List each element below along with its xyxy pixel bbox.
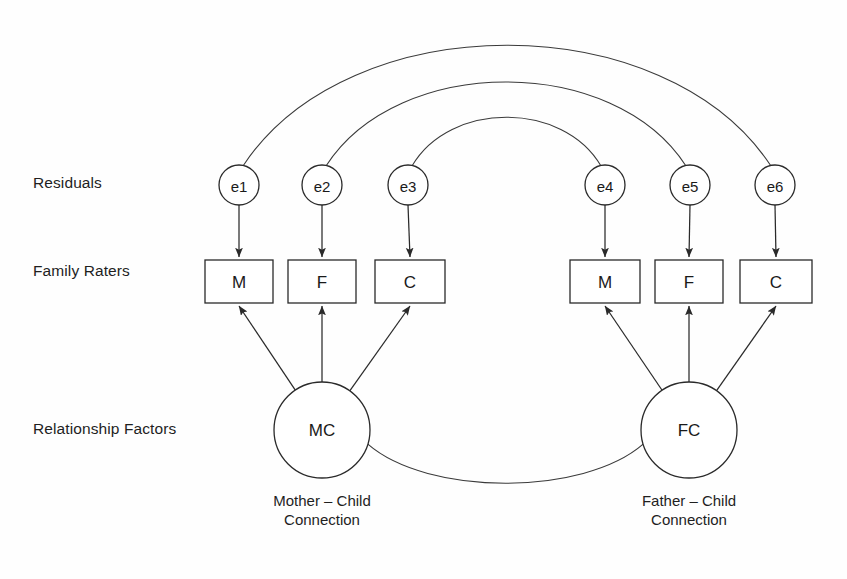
residual-label: e1 (231, 178, 248, 195)
indicator-label: F (317, 273, 327, 292)
factor-label: MC (309, 421, 335, 440)
correlation-arc-group (243, 45, 771, 166)
indicator-node: F (655, 260, 723, 303)
residual-to-indicator-arrow (775, 205, 776, 257)
indicator-box-group: MFCMFC (205, 260, 812, 303)
residual-label: e5 (682, 178, 699, 195)
residual-node: e3 (388, 165, 428, 205)
residual-correlation-arc (243, 45, 771, 166)
loading-arrow-group (239, 306, 776, 391)
residual-label: e2 (314, 178, 331, 195)
residual-label: e3 (400, 178, 417, 195)
indicator-label: C (404, 273, 416, 292)
indicator-node: M (205, 260, 273, 303)
residual-to-indicator-arrow (689, 205, 690, 257)
factor-circle-group: MCFC (274, 382, 737, 478)
indicator-node: C (740, 260, 812, 303)
indicator-label: M (232, 273, 246, 292)
path-diagram: Residuals Family Raters Relationship Fac… (0, 0, 847, 579)
residual-node: e5 (670, 165, 710, 205)
indicator-label: F (684, 273, 694, 292)
residual-arrow-group (239, 205, 776, 257)
indicator-label: M (598, 273, 612, 292)
residual-label: e6 (767, 178, 784, 195)
diagram-canvas: MFCMFC e1e2e3e4e5e6 MCFC (0, 0, 847, 579)
residual-correlation-arc (412, 117, 601, 166)
factor-label: FC (678, 421, 701, 440)
factor-loading-arrow (717, 306, 776, 391)
indicator-label: C (770, 273, 782, 292)
residual-label: e4 (597, 178, 614, 195)
residual-node: e4 (585, 165, 625, 205)
residual-node: e6 (755, 165, 795, 205)
factor-loading-arrow (605, 306, 662, 390)
residual-node: e1 (219, 165, 259, 205)
factor-loading-arrow (239, 306, 295, 390)
factor-loading-arrow (350, 306, 410, 391)
factor-node: MC (274, 382, 370, 478)
indicator-node: M (570, 260, 640, 303)
residual-to-indicator-arrow (408, 205, 410, 257)
residual-circle-group: e1e2e3e4e5e6 (219, 165, 795, 205)
indicator-node: C (375, 260, 445, 303)
factor-covariance-curve (368, 444, 643, 483)
factor-node: FC (641, 382, 737, 478)
residual-correlation-arc (326, 82, 686, 166)
factor-covariance-group (368, 444, 643, 483)
indicator-node: F (288, 260, 356, 303)
residual-node: e2 (302, 165, 342, 205)
